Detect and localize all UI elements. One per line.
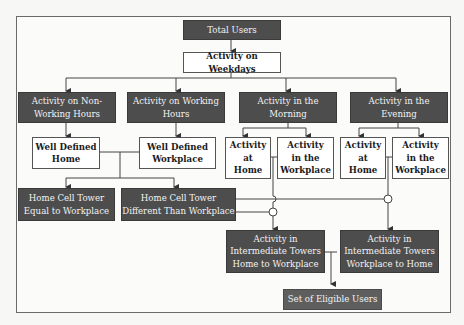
node-intermediate-work-to-home: Activity in Intermediate Towers Workplac…	[340, 230, 439, 273]
node-morning-in-workplace: Activity in the Workplace	[277, 137, 334, 179]
node-well-defined-home: Well Defined Home	[32, 137, 100, 169]
node-well-defined-workplace: Well Defined Workplace	[139, 137, 216, 169]
node-working-hours: Activity on Working Hours	[127, 92, 225, 123]
node-evening-in-workplace: Activity in the Workplace	[392, 137, 449, 179]
junction-circle	[384, 195, 392, 203]
node-tower-different-workplace: Home Cell Tower Different Than Workplace	[121, 188, 236, 221]
node-total-users: Total Users	[183, 20, 281, 40]
node-activity-weekdays: Activity on Weekdays	[183, 52, 281, 73]
node-eligible-users: Set of Eligible Users	[283, 289, 382, 310]
node-tower-equal-workplace: Home Cell Tower Equal to Workplace	[18, 188, 115, 221]
node-non-working-hours: Activity on Non- Working Hours	[18, 92, 116, 123]
node-evening: Activity in the Evening	[350, 92, 448, 123]
node-morning: Activity in the Morning	[239, 92, 337, 123]
node-evening-at-home: Activity at Home	[340, 137, 386, 179]
node-morning-at-home: Activity at Home	[225, 137, 271, 179]
node-intermediate-home-to-work: Activity in Intermediate Towers Home to …	[226, 230, 325, 273]
junction-circle	[269, 208, 277, 216]
